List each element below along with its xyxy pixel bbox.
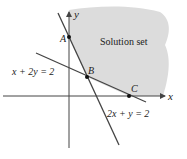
point-b-label: B (88, 65, 94, 76)
x-axis-label: x (167, 90, 173, 102)
diagram-canvas: y x A B C Solution set x + 2y = 2 2x + y… (0, 0, 187, 159)
point-c (127, 94, 131, 98)
equation-label-x-plus-2y: x + 2y = 2 (11, 66, 54, 77)
solution-set-region (69, 7, 169, 97)
point-a-label: A (59, 33, 67, 44)
y-axis-label: y (73, 8, 79, 20)
point-a (67, 35, 71, 39)
solution-set-label: Solution set (100, 36, 148, 47)
point-c-label: C (131, 83, 138, 94)
equation-label-2x-plus-y: 2x + y = 2 (107, 108, 149, 119)
